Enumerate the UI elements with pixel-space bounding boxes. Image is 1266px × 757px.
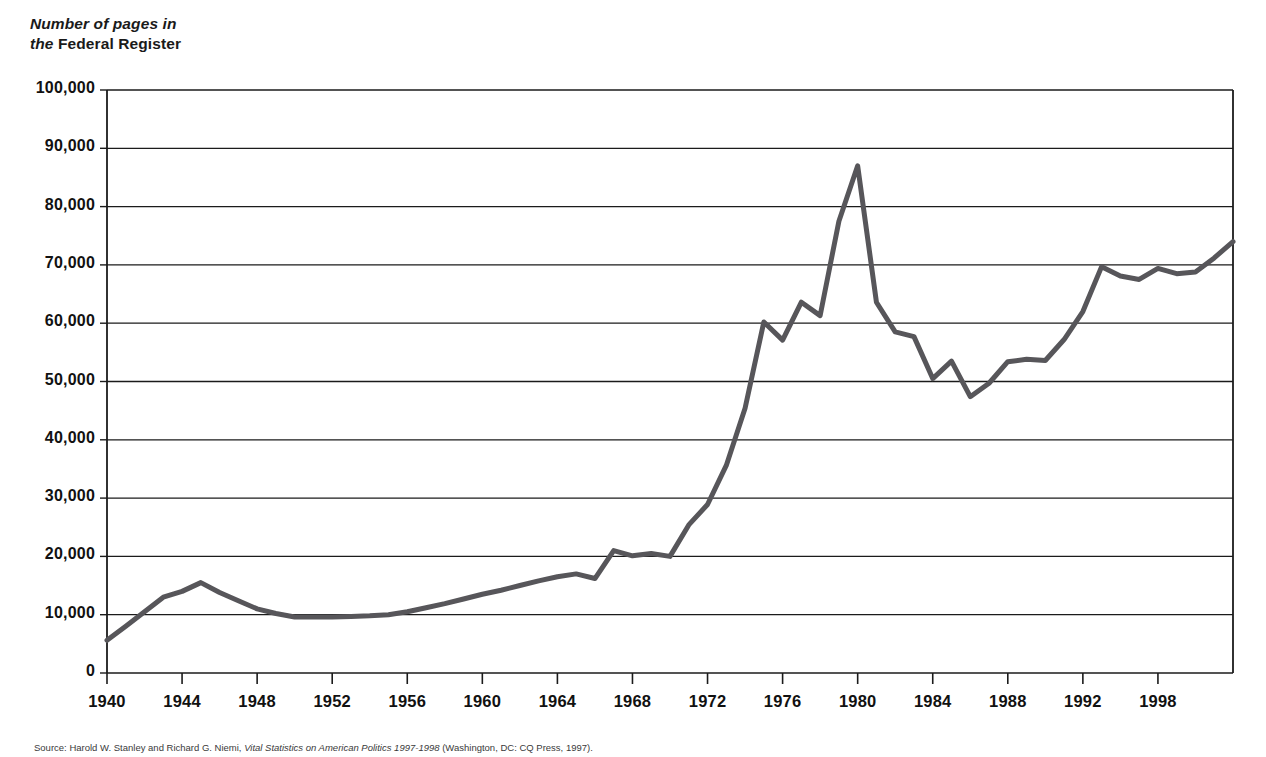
y-axis-tick-label: 80,000 bbox=[3, 196, 95, 214]
x-axis-tick-label: 1988 bbox=[973, 692, 1043, 711]
y-axis-tick-label: 60,000 bbox=[3, 312, 95, 330]
y-axis-tick-label: 20,000 bbox=[3, 545, 95, 563]
chart-figure: Number of pages in the Federal Register … bbox=[0, 0, 1266, 757]
source-publisher: (Washington, DC: CQ Press, 1997). bbox=[442, 742, 593, 753]
data-series-line bbox=[107, 166, 1233, 641]
plot-area bbox=[0, 0, 1266, 700]
x-axis-tick-label: 1980 bbox=[823, 692, 893, 711]
y-axis-tick-label: 30,000 bbox=[3, 487, 95, 505]
source-work-title: Vital Statistics on American Politics 19… bbox=[244, 742, 442, 753]
y-axis-tick-label: 40,000 bbox=[3, 429, 95, 447]
x-axis-tick-label: 1964 bbox=[522, 692, 592, 711]
y-axis-tick-label: 90,000 bbox=[3, 137, 95, 155]
x-axis-tick-label: 1984 bbox=[898, 692, 968, 711]
line-chart-svg bbox=[0, 0, 1266, 700]
source-authors: Harold W. Stanley and Richard G. Niemi, bbox=[69, 742, 244, 753]
x-axis-tick-label: 1956 bbox=[372, 692, 442, 711]
y-axis-tick-label: 0 bbox=[3, 662, 95, 680]
x-axis-tick-label: 1998 bbox=[1123, 692, 1193, 711]
x-axis-tick-label: 1976 bbox=[748, 692, 818, 711]
x-axis-tick-label: 1992 bbox=[1048, 692, 1118, 711]
source-label: Source: bbox=[34, 742, 69, 753]
x-axis-tick-label: 1940 bbox=[72, 692, 142, 711]
y-axis-tick-label: 100,000 bbox=[3, 79, 95, 97]
source-note: Source: Harold W. Stanley and Richard G.… bbox=[34, 742, 1244, 754]
x-axis-tick-label: 1968 bbox=[597, 692, 667, 711]
y-axis-tick-label: 50,000 bbox=[3, 371, 95, 389]
x-axis-tick-label: 1948 bbox=[222, 692, 292, 711]
y-axis-tick-label: 10,000 bbox=[3, 604, 95, 622]
x-axis-tick-label: 1960 bbox=[447, 692, 517, 711]
x-axis-tick-label: 1972 bbox=[673, 692, 743, 711]
x-axis-tick-label: 1952 bbox=[297, 692, 367, 711]
y-axis-tick-label: 70,000 bbox=[3, 254, 95, 272]
x-axis-tick-label: 1944 bbox=[147, 692, 217, 711]
